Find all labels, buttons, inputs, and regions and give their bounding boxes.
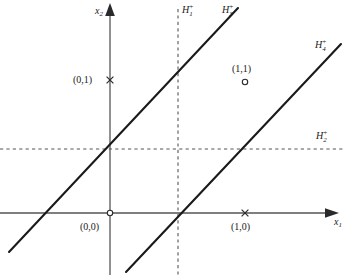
- point-label-one-one: (1,1): [232, 64, 251, 74]
- halfspace-line-h3: [9, 8, 238, 252]
- halfspace-label-h2: H2+: [316, 131, 331, 141]
- point-label-origin: (0,0): [80, 222, 99, 232]
- x-axis: [0, 208, 339, 218]
- halfspace-label-h1: H1+: [182, 5, 197, 15]
- halfspace-diagram: x2 x1 H1+ H2+ H3+ H4+ (0,0) (0,1) (1,0) …: [0, 0, 351, 275]
- halfspace-line-h4: [126, 44, 341, 272]
- point-marker-one-one: [242, 79, 247, 84]
- point-label-zero-one: (0,1): [73, 75, 92, 85]
- halfspace-label-h3: H3+: [222, 5, 237, 15]
- point-label-one-zero: (1,0): [231, 222, 250, 232]
- point-marker-origin: [107, 210, 112, 215]
- x-axis-label: x1: [334, 217, 342, 227]
- plot-canvas: [0, 0, 351, 275]
- y-axis: [105, 3, 115, 275]
- y-axis-label: x2: [95, 6, 103, 16]
- halfspace-label-h4: H4+: [315, 40, 330, 50]
